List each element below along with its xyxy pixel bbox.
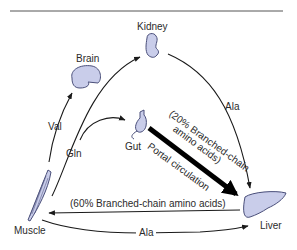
gut-organ: Gut [125, 110, 146, 152]
gut-icon [136, 110, 147, 132]
ala-muscle-label: Ala [139, 227, 154, 238]
kidney-organ: Kidney [137, 21, 168, 57]
liver-label: Liver [260, 220, 282, 231]
muscle-label: Muscle [14, 225, 46, 236]
val-label: Val [48, 121, 62, 132]
brain-icon [72, 66, 101, 88]
sixty-percent-label: (60% Branched-chain amino acids) [70, 198, 226, 209]
gut-tail-icon [132, 131, 137, 139]
brain-label: Brain [76, 53, 99, 64]
muscle-icon [28, 170, 51, 221]
ala-kidney-label: Ala [225, 101, 240, 112]
gln-label: Gln [66, 148, 82, 159]
brain-organ: Brain [72, 53, 101, 88]
arrow-liver-to-muscle [49, 210, 240, 213]
amino-acid-flow-diagram: Brain Kidney Gut Muscle Liver Val Gln Al… [0, 0, 297, 250]
muscle-organ: Muscle [14, 170, 51, 236]
kidney-label: Kidney [137, 21, 168, 32]
kidney-icon [146, 34, 159, 58]
gut-label: Gut [125, 141, 141, 152]
liver-icon [244, 192, 286, 218]
arrow-gln-to-gut [80, 118, 125, 140]
liver-organ: Liver [244, 192, 286, 231]
